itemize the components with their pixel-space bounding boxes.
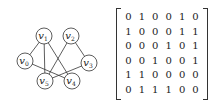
matrix-cell: 1 xyxy=(189,39,202,54)
matrix-cell: 0 xyxy=(162,54,175,69)
matrix-cell: 0 xyxy=(162,68,175,83)
adjacency-matrix: 0 1 0 0 1 0 1 0 0 0 1 1 0 0 0 1 0 1 0 0 … xyxy=(116,8,208,98)
matrix-cell: 0 xyxy=(189,68,202,83)
matrix-row: 1 1 0 0 0 0 xyxy=(122,68,202,83)
matrix-row: 1 0 0 0 1 1 xyxy=(122,25,202,40)
node-v0: v0 xyxy=(17,53,33,69)
matrix-cell: 0 xyxy=(149,25,162,40)
matrix-cell: 0 xyxy=(122,39,135,54)
node-v5: v5 xyxy=(37,73,53,89)
matrix-cell: 0 xyxy=(122,54,135,69)
matrix-cell: 1 xyxy=(189,54,202,69)
matrix-cell: 0 xyxy=(149,39,162,54)
matrix-cell: 0 xyxy=(135,54,148,69)
matrix-cell: 0 xyxy=(176,68,189,83)
matrix-cell: 0 xyxy=(135,25,148,40)
matrix-row: 0 0 0 1 0 1 xyxy=(122,39,202,54)
node-v4: v4 xyxy=(64,73,80,89)
matrix-cell: 1 xyxy=(162,83,175,98)
graph-edges xyxy=(25,36,89,81)
matrix-cell: 0 xyxy=(176,54,189,69)
matrix-cell: 0 xyxy=(149,10,162,25)
matrix-cell: 0 xyxy=(176,39,189,54)
node-v3: v3 xyxy=(81,55,97,71)
matrix-cell: 0 xyxy=(149,68,162,83)
matrix-cell: 1 xyxy=(176,10,189,25)
matrix-cell: 0 xyxy=(122,83,135,98)
node-v2: v2 xyxy=(63,28,79,44)
matrix-cell: 1 xyxy=(135,68,148,83)
matrix-cell: 0 xyxy=(189,83,202,98)
graph-diagram: v0v1v2v3v4v5 xyxy=(0,0,110,105)
matrix-cell: 0 xyxy=(122,10,135,25)
matrix-cell: 0 xyxy=(162,25,175,40)
matrix-row: 0 0 1 0 0 1 xyxy=(122,54,202,69)
matrix-cell: 1 xyxy=(122,68,135,83)
matrix-cell: 0 xyxy=(162,10,175,25)
matrix-row: 0 1 0 0 1 0 xyxy=(122,10,202,25)
node-v1: v1 xyxy=(36,28,52,44)
matrix-cell: 1 xyxy=(162,39,175,54)
matrix-cell: 0 xyxy=(176,83,189,98)
matrix-cell: 1 xyxy=(149,83,162,98)
matrix-cell: 1 xyxy=(135,83,148,98)
matrix-cell: 1 xyxy=(122,25,135,40)
graph-nodes: v0v1v2v3v4v5 xyxy=(17,28,97,89)
matrix-cell: 0 xyxy=(135,39,148,54)
matrix-cell: 1 xyxy=(135,10,148,25)
matrix-cell: 0 xyxy=(189,10,202,25)
right-bracket xyxy=(203,8,208,100)
matrix-cell: 1 xyxy=(176,25,189,40)
matrix-cell: 1 xyxy=(189,25,202,40)
matrix-cell: 1 xyxy=(149,54,162,69)
matrix-row: 0 1 1 1 0 0 xyxy=(122,83,202,98)
matrix-rows: 0 1 0 0 1 0 1 0 0 0 1 1 0 0 0 1 0 1 0 0 … xyxy=(122,10,202,97)
left-bracket xyxy=(116,8,121,100)
